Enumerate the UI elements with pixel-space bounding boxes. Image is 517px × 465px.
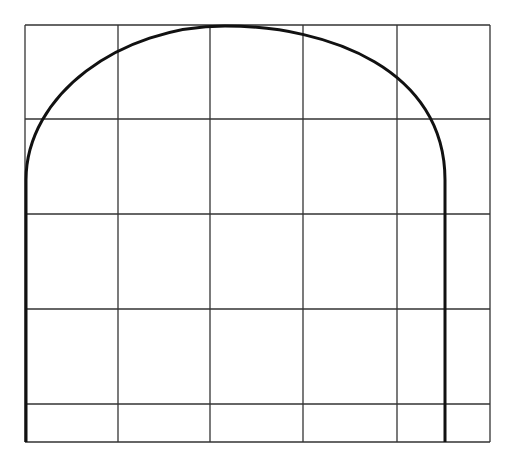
arch-outline — [26, 26, 445, 442]
grid-lines — [25, 25, 490, 442]
grid-arch-diagram — [0, 0, 517, 465]
diagram-canvas — [0, 0, 517, 465]
